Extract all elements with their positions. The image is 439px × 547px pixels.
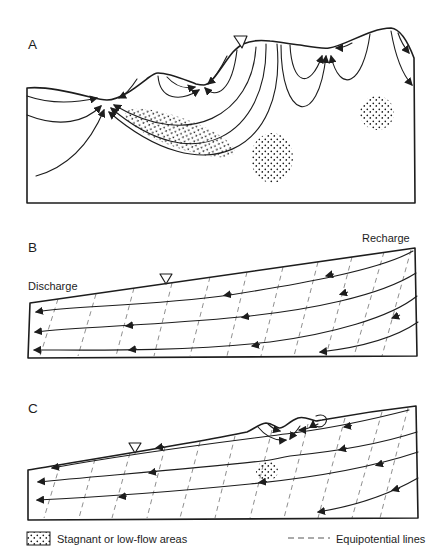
diagram-canvas: A B Discharge Recharge bbox=[0, 0, 439, 547]
flow-line bbox=[318, 478, 418, 512]
panel-b-label: B bbox=[28, 240, 37, 255]
stagnant-area bbox=[120, 99, 239, 167]
flow-line bbox=[320, 322, 418, 352]
panel-b: B Discharge Recharge bbox=[28, 232, 418, 358]
legend-stagnant-label: Stagnant or low-flow areas bbox=[57, 533, 188, 545]
equipotential-lines bbox=[40, 250, 411, 356]
panel-c-label: C bbox=[28, 401, 38, 416]
figure-groundwater-flow-systems: A B Discharge Recharge bbox=[0, 0, 439, 547]
flow-line bbox=[38, 432, 417, 482]
stagnant-area bbox=[360, 96, 394, 130]
local-flow-cells bbox=[258, 415, 326, 440]
equipotential-lines bbox=[44, 408, 408, 518]
flow-line bbox=[391, 31, 412, 85]
flow-line bbox=[36, 110, 104, 176]
flow-line bbox=[281, 45, 326, 107]
discharge-label: Discharge bbox=[28, 280, 78, 292]
section-outline bbox=[27, 28, 415, 203]
legend-equipotential-label: Equipotential lines bbox=[336, 533, 426, 545]
water-table-icon bbox=[234, 36, 247, 48]
flow-line bbox=[36, 251, 413, 312]
flow-line bbox=[27, 106, 101, 122]
flow-line bbox=[52, 410, 409, 468]
panel-c: C bbox=[28, 401, 418, 520]
stagnant-area bbox=[251, 133, 293, 183]
stagnant-area bbox=[256, 461, 278, 481]
flow-line bbox=[290, 45, 322, 79]
panel-a-label: A bbox=[28, 37, 37, 52]
panel-a: A bbox=[27, 28, 415, 203]
flow-line bbox=[208, 56, 227, 84]
flow-line bbox=[34, 296, 417, 350]
flow-line bbox=[205, 50, 237, 93]
legend: Stagnant or low-flow areas Equipotential… bbox=[27, 532, 426, 545]
flow-line bbox=[158, 76, 199, 97]
recharge-label: Recharge bbox=[362, 232, 410, 244]
stagnant-swatch-icon bbox=[27, 532, 50, 545]
